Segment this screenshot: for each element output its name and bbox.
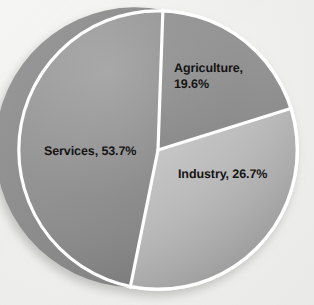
- pie-label-services: Services, 53.7%: [44, 144, 136, 160]
- pie-label-industry: Industry, 26.7%: [178, 167, 267, 183]
- pie-label-agriculture: Agriculture, 19.6%: [174, 61, 243, 92]
- pie-chart: Agriculture, 19.6% Industry, 26.7% Servi…: [0, 0, 314, 305]
